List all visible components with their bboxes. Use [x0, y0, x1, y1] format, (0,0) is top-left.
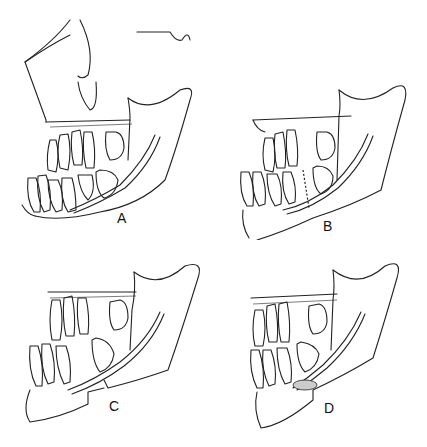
panel-b: B [213, 60, 427, 240]
panel-a: A [0, 0, 213, 230]
panel-d: D [213, 250, 427, 447]
panel-label-a: A [117, 210, 126, 226]
mandible-drawing-b [213, 60, 427, 240]
mandible-drawing-d [213, 250, 427, 447]
panel-label-d: D [324, 400, 334, 416]
panel-label-c: C [109, 398, 119, 414]
panel-c: C [0, 250, 213, 447]
bone-graft [293, 380, 317, 390]
mandible-drawing-c [0, 250, 213, 447]
panel-label-b: B [323, 218, 332, 234]
mandible-drawing-a [0, 0, 213, 230]
